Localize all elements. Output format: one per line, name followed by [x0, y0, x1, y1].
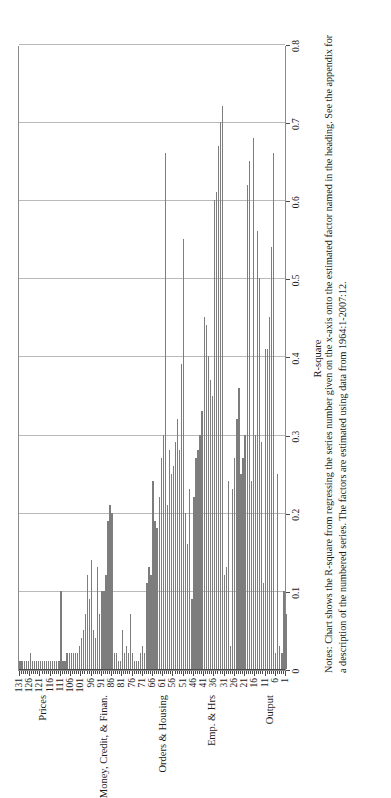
series-axis-tick	[27, 671, 28, 674]
series-axis-tick-label: 76	[127, 678, 137, 688]
bar	[253, 138, 254, 669]
bar	[42, 661, 43, 669]
series-axis-tick	[265, 671, 266, 676]
series-axis-tick	[80, 671, 81, 676]
bar	[111, 513, 112, 669]
value-axis-tick	[286, 123, 290, 124]
bar	[19, 661, 20, 669]
bar	[30, 653, 31, 669]
series-group-label: Money, Credit, & Finan.	[97, 695, 108, 798]
series-axis-tick	[23, 671, 24, 674]
series-axis-tick	[228, 671, 229, 674]
bar-series	[19, 46, 285, 669]
series-axis-tick	[240, 671, 241, 674]
series-axis-tick	[148, 671, 149, 674]
bar	[156, 528, 157, 669]
series-axis-tick	[107, 671, 108, 674]
bar	[185, 513, 186, 669]
series-axis-tick-label: 6	[270, 678, 280, 683]
zero-axis-line	[19, 669, 285, 670]
series-axis-tick	[258, 671, 259, 674]
bar	[265, 349, 266, 669]
series-axis-tick	[220, 671, 221, 674]
series-axis-tick	[238, 671, 239, 674]
series-axis-tick	[87, 671, 88, 674]
plot-area	[18, 46, 286, 671]
bar	[247, 185, 248, 669]
bar	[238, 388, 239, 669]
series-axis-tick	[177, 671, 178, 674]
bar	[201, 411, 202, 669]
series-axis-tick	[64, 671, 65, 674]
series-axis-tick	[25, 671, 26, 674]
series-axis-tick-label: 46	[188, 678, 198, 688]
bar	[64, 661, 65, 669]
bar	[249, 161, 250, 669]
bar	[222, 107, 223, 670]
series-axis-tick	[66, 671, 67, 674]
series-axis-tick	[209, 671, 210, 674]
value-axis-tick-label: 0.4	[291, 353, 301, 365]
series-axis-tick	[70, 671, 71, 676]
series-axis-tick	[201, 671, 202, 674]
series-axis-ticks: 1611162126313641465156616671768186919610…	[18, 671, 286, 689]
bar	[183, 239, 184, 669]
bar	[144, 653, 145, 669]
series-axis-tick	[52, 671, 53, 674]
bar	[165, 153, 166, 669]
bar	[91, 560, 92, 669]
bar	[89, 599, 90, 669]
bar	[191, 599, 192, 669]
bar	[283, 591, 284, 669]
series-axis-tick	[271, 671, 272, 674]
series-axis-tick	[44, 671, 45, 674]
bar	[116, 653, 117, 669]
series-axis-tick	[222, 671, 223, 674]
series-axis-tick	[191, 671, 192, 674]
bar	[179, 450, 180, 669]
bar	[171, 474, 172, 669]
bar	[263, 583, 264, 669]
bar	[271, 247, 272, 669]
series-axis-tick-label: 106	[65, 678, 75, 692]
series-axis-tick	[78, 671, 79, 674]
series-axis-tick	[158, 671, 159, 674]
series-axis-tick	[68, 671, 69, 674]
bar	[99, 614, 100, 669]
series-axis-tick	[199, 671, 200, 674]
series-axis-tick	[262, 671, 263, 674]
value-axis-ticks: 00.10.20.30.40.50.60.70.8	[286, 46, 312, 671]
series-axis-tick	[113, 671, 114, 674]
bar	[34, 661, 35, 669]
series-axis-tick	[89, 671, 90, 674]
bar	[62, 661, 63, 669]
bar	[124, 653, 125, 669]
bar	[177, 419, 178, 669]
bar	[261, 442, 262, 669]
series-axis-tick	[54, 671, 55, 674]
bar	[52, 661, 53, 669]
series-axis-tick	[195, 671, 196, 674]
bar	[101, 591, 102, 669]
bar	[234, 458, 235, 669]
bar	[38, 661, 39, 669]
bar	[159, 497, 160, 669]
series-axis-tick-label: 86	[106, 678, 116, 688]
series-axis-tick	[236, 671, 237, 674]
series-axis-tick	[179, 671, 180, 674]
series-axis-tick	[62, 671, 63, 674]
bar	[109, 505, 110, 669]
bar	[220, 122, 221, 669]
series-axis-tick	[172, 671, 173, 676]
series-axis-tick	[33, 671, 34, 674]
value-axis-tick-label: 0.8	[291, 40, 301, 52]
value-axis-tick-label: 0.5	[291, 274, 301, 286]
series-axis-tick-label: 116	[45, 678, 55, 692]
bar	[204, 317, 205, 669]
series-axis-tick	[37, 671, 38, 674]
bar	[163, 435, 164, 669]
series-axis-tick	[205, 671, 206, 674]
bar	[169, 450, 170, 669]
